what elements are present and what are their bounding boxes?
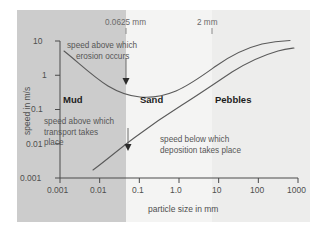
annotation-deposition: speed below which deposition takes place <box>160 135 241 156</box>
annotation-transport-line2: transport takes <box>44 128 114 139</box>
plot-svg <box>0 0 323 230</box>
hjulstrom-curve-figure: 0.0625 mm 2 mm 10 1 0.1 0.01 0.001 0.001… <box>0 0 323 230</box>
x-tick-label-1-0: 1.0 <box>170 185 182 195</box>
x-tick-label-0-1: 0.1 <box>132 185 144 195</box>
x-tick-label-0-01: 0.01 <box>90 185 107 195</box>
x-tick-label-10: 10 <box>212 185 221 195</box>
x-tick-label-1000: 1000 <box>287 185 306 195</box>
transport-annotation-leader <box>125 128 132 151</box>
x-tick-label-0-001: 0.001 <box>47 185 68 195</box>
y-tick-label-0-01: 0.01 <box>26 139 43 149</box>
top-label-2mm: 2 mm <box>197 18 217 27</box>
y-tick-label-0-001: 0.001 <box>20 173 41 183</box>
annotation-erosion-line2: erosion occurs <box>76 52 137 63</box>
x-axis-title: particle size in mm <box>148 204 218 214</box>
y-tick-label-10: 10 <box>33 36 42 46</box>
annotation-transport: speed above which transport takes place <box>44 117 114 149</box>
top-label-0-0625mm: 0.0625 mm <box>105 18 146 27</box>
annotation-transport-line1: speed above which <box>44 117 114 128</box>
y-tick-label-1: 1 <box>42 70 47 80</box>
annotation-transport-line3: place <box>44 138 114 149</box>
annotation-erosion: speed above which erosion occurs <box>67 41 137 62</box>
annotation-deposition-line1: speed below which <box>160 135 241 146</box>
zone-label-pebbles: Pebbles <box>215 94 251 105</box>
y-tick-label-0-1: 0.1 <box>31 104 43 114</box>
zone-label-sand: Sand <box>140 94 163 105</box>
erosion-annotation-leader <box>123 58 130 85</box>
x-tick-label-100: 100 <box>250 185 264 195</box>
y-axis-title: speed in m/s <box>22 87 32 135</box>
top-reference-ticks <box>126 28 212 34</box>
annotation-erosion-line1: speed above which <box>67 41 137 52</box>
zone-label-mud: Mud <box>63 94 83 105</box>
x-axis-ticks <box>60 178 298 183</box>
annotation-deposition-line2: deposition takes place <box>160 146 241 157</box>
y-axis-ticks <box>55 41 60 178</box>
